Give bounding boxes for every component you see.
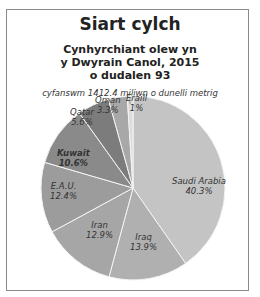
pie-chart: [0, 0, 260, 297]
label-oman: Oman 3.3%: [95, 95, 121, 115]
label-iraq: Iraq 13.9%: [130, 232, 157, 252]
label-eau: E.A.U. 12.4%: [50, 181, 77, 201]
label-saudi-arabia: Saudi Arabia 40.3%: [172, 176, 226, 196]
label-eraill: Eraill 1%: [126, 93, 147, 113]
label-iran: Iran 12.9%: [86, 220, 113, 240]
label-qatar: Qatar 5.6%: [70, 107, 94, 127]
label-kuwait: Kuwait 10.6%: [57, 148, 90, 168]
